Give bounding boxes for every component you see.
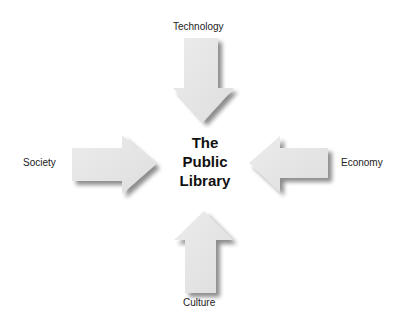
arrow-down-technology xyxy=(173,38,234,122)
arrow-right-society xyxy=(72,135,156,194)
label-society: Society xyxy=(23,157,56,168)
label-culture: Culture xyxy=(183,297,215,308)
label-economy: Economy xyxy=(341,157,383,168)
center-line-2: Public xyxy=(160,152,250,171)
center-title: The Public Library xyxy=(160,133,250,190)
label-technology: Technology xyxy=(173,21,224,32)
center-line-3: Library xyxy=(160,171,250,190)
arrow-up-culture xyxy=(174,211,233,293)
arrow-left-economy xyxy=(249,136,328,192)
center-line-1: The xyxy=(160,133,250,152)
